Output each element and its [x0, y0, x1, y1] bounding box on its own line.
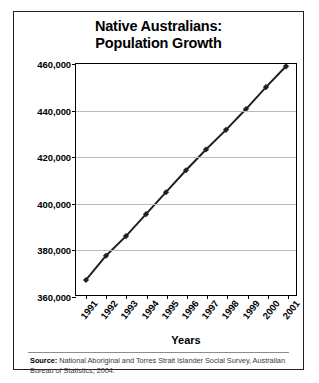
line-series: [76, 64, 296, 295]
y-axis-tick: [72, 250, 76, 251]
y-axis-tick: [72, 157, 76, 158]
y-axis-label: 420,000: [37, 152, 71, 163]
chart-title-line-2: Population Growth: [14, 35, 303, 52]
x-axis-label: 1998: [220, 298, 241, 321]
y-axis-tick: [72, 64, 76, 65]
x-axis-label: 1992: [99, 298, 120, 321]
x-axis-label: 1999: [240, 298, 261, 321]
x-axis-title: Years: [75, 334, 297, 346]
x-axis-tick: [288, 295, 289, 299]
x-axis-tick: [147, 295, 148, 299]
gridline-y: [76, 111, 296, 112]
source-label: Source:: [30, 356, 57, 365]
y-axis-label: 360,000: [37, 292, 71, 303]
y-axis-tick: [72, 297, 76, 298]
chart-title-line-1: Native Australians:: [14, 18, 303, 35]
y-axis-tick: [72, 111, 76, 112]
y-axis-label: 380,000: [37, 245, 71, 256]
x-axis-label: 2001: [280, 298, 301, 321]
x-axis-label: 1997: [199, 298, 220, 321]
y-axis-label: 440,000: [37, 105, 71, 116]
y-axis-tick: [72, 204, 76, 205]
y-axis-label: 400,000: [37, 198, 71, 209]
x-axis-tick: [248, 295, 249, 299]
chart-title: Native Australians: Population Growth: [14, 18, 303, 52]
gridline-y: [76, 157, 296, 158]
x-axis-label: 1996: [179, 298, 200, 321]
chart-figure: Native Australians: Population Growth 36…: [13, 11, 304, 370]
source-divider: [28, 352, 289, 353]
x-axis-label: 2000: [260, 298, 281, 321]
x-axis-tick: [187, 295, 188, 299]
y-axis-label: 460,000: [37, 59, 71, 70]
source-text: National Aboriginal and Torres Strait Is…: [30, 356, 285, 375]
x-axis-label: 1993: [119, 298, 140, 321]
x-axis-tick: [207, 295, 208, 299]
x-axis-tick: [126, 295, 127, 299]
source-note: Source: National Aboriginal and Torres S…: [30, 356, 291, 375]
gridline-y: [76, 204, 296, 205]
x-axis-tick: [268, 295, 269, 299]
gridline-y: [76, 250, 296, 251]
x-axis-tick: [227, 295, 228, 299]
x-axis-tick: [86, 295, 87, 299]
x-axis-tick: [167, 295, 168, 299]
x-axis-tick: [106, 295, 107, 299]
x-axis-label: 1995: [159, 298, 180, 321]
plot-area: 360,000380,000400,000420,000440,000460,0…: [75, 63, 297, 296]
x-axis-label: 1994: [139, 298, 160, 321]
x-axis-label: 1991: [78, 298, 99, 321]
